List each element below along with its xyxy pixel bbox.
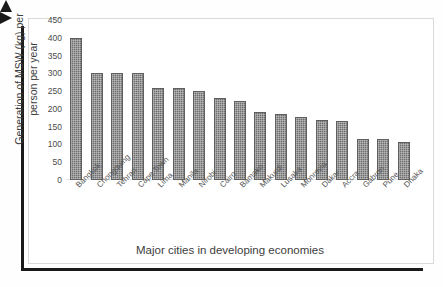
- category-slot: Bangkok: [66, 182, 86, 234]
- bar: [214, 98, 226, 180]
- bar-slot: [168, 20, 188, 180]
- bar: [234, 101, 246, 180]
- category-slot: Makurdi: [250, 182, 270, 234]
- category-slot: Dakar: [312, 182, 332, 234]
- x-axis-arrow-shaft: [21, 268, 423, 271]
- y-tick-label: 250: [36, 86, 62, 96]
- bar-slot: [373, 20, 393, 180]
- x-axis-category-labels: BangkokChongquingTehranCape TownLimaMani…: [66, 182, 414, 234]
- y-axis-title-line1: Generation of MSW (kg) per: [12, 13, 26, 144]
- bar-slot: [189, 20, 209, 180]
- bar: [70, 38, 82, 180]
- bar-slot: [209, 20, 229, 180]
- category-slot: Gabron: [353, 182, 373, 234]
- bar-slot: [271, 20, 291, 180]
- bar: [132, 73, 144, 180]
- category-slot: Pune: [373, 182, 393, 234]
- chart-figure: Generation of MSW (kg) per person per ye…: [0, 0, 443, 287]
- bar-slot: [86, 20, 106, 180]
- bar-slot: [250, 20, 270, 180]
- y-tick-label: 200: [36, 104, 62, 114]
- category-slot: Monrovia: [291, 182, 311, 234]
- bar-slot: [332, 20, 352, 180]
- y-tick-label: 400: [36, 33, 62, 43]
- category-slot: Dhaka: [394, 182, 414, 234]
- category-slot: Nirobi: [189, 182, 209, 234]
- bar-slot: [312, 20, 332, 180]
- bar-slot: [230, 20, 250, 180]
- plot-area: [66, 20, 414, 180]
- y-tick-label: 100: [36, 139, 62, 149]
- category-slot: Bamako: [230, 182, 250, 234]
- bar-slot: [353, 20, 373, 180]
- category-slot: Tehran: [107, 182, 127, 234]
- y-tick-label: 450: [36, 15, 62, 25]
- x-axis-title: Major cities in developing economies: [28, 244, 432, 256]
- bar: [173, 88, 185, 180]
- bar-series: [66, 20, 414, 180]
- y-tick-label: 50: [36, 157, 62, 167]
- bar-slot: [394, 20, 414, 180]
- category-slot: Cairo: [209, 182, 229, 234]
- bar-slot: [291, 20, 311, 180]
- bar-slot: [127, 20, 147, 180]
- category-slot: Accra: [332, 182, 352, 234]
- y-tick-label: 150: [36, 122, 62, 132]
- y-axis-tick-labels: 050100150200250300350400450: [36, 20, 62, 180]
- y-tick-label: 350: [36, 51, 62, 61]
- category-slot: Chongquing: [86, 182, 106, 234]
- y-tick-label: 0: [36, 175, 62, 185]
- category-slot: Lusaka: [271, 182, 291, 234]
- category-slot: Cape Town: [127, 182, 147, 234]
- category-slot: Manila: [168, 182, 188, 234]
- y-tick-label: 300: [36, 68, 62, 78]
- category-slot: Lima: [148, 182, 168, 234]
- bar-slot: [66, 20, 86, 180]
